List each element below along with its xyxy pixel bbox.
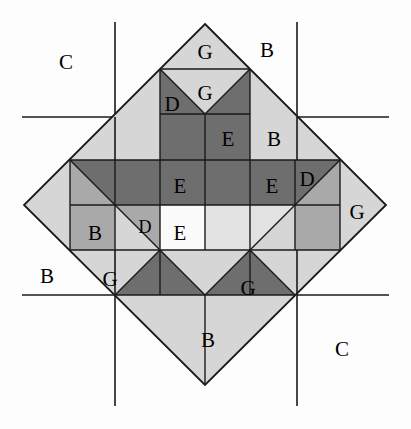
label-b-top-right: B [260,40,274,61]
label-b-lower-left: B [88,223,102,244]
label-e-row3-right: E [222,129,235,150]
cell-r4-center-right-dark-square [205,160,250,205]
label-d-band-far-right: D [299,169,314,190]
label-g-lower-left: G [102,269,117,290]
cell-r3-left-dark-square [160,114,205,160]
label-b-bottom-vertex: B [201,330,215,351]
label-g-row2: G [197,83,212,104]
cell-r5-center-pale-square [205,205,250,250]
label-e-band-left: E [174,176,187,197]
label-b-outer-left: B [40,266,54,287]
label-g-apex: G [197,42,212,63]
label-g-right-vertex: G [349,202,364,223]
label-b-upper-right: B [267,129,281,150]
cell-r4-left-dark-square [115,160,160,205]
label-c-bottom-right: C [335,339,349,360]
diagram-canvas: C B G G D E B E E D G B D E B G G B C [0,0,411,429]
cell-r5-far-right [295,205,340,250]
label-d-lower-left: D [139,217,152,238]
label-c-top-left: C [59,52,73,73]
label-e-center-white: E [174,223,187,244]
label-d-row2-left: D [164,94,179,115]
label-e-band-right: E [266,176,279,197]
label-g-lower-right: G [240,278,255,299]
